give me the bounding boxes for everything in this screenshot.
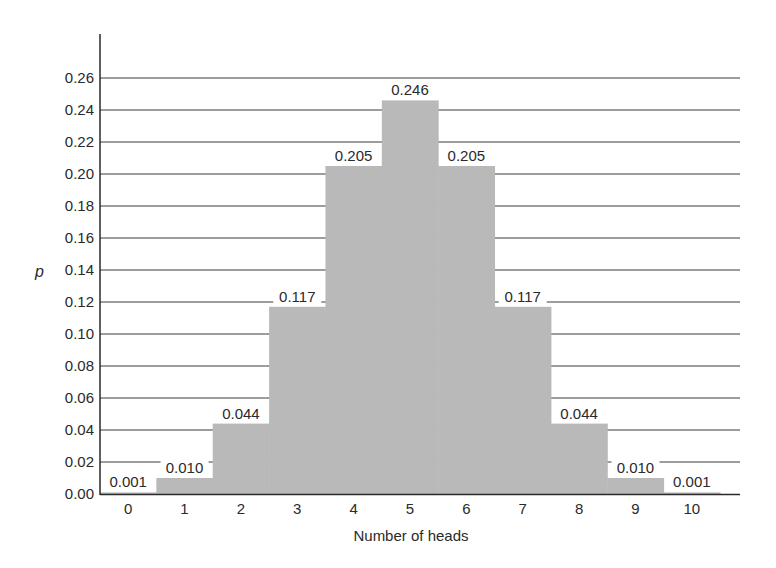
y-tick-label: 0.26 <box>65 69 94 86</box>
x-tick-label: 2 <box>237 500 245 517</box>
y-tick-label: 0.10 <box>65 325 94 342</box>
x-tick-label: 9 <box>631 500 639 517</box>
value-label: 0.117 <box>279 288 315 305</box>
value-label: 0.044 <box>560 405 598 422</box>
y-tick-label: 0.24 <box>65 101 94 118</box>
value-label: 0.044 <box>222 405 260 422</box>
y-tick-label: 0.20 <box>65 165 94 182</box>
bar-3 <box>269 307 326 494</box>
bar-7 <box>495 307 552 494</box>
y-tick-label: 0.22 <box>65 133 94 150</box>
y-tick-label: 0.06 <box>65 389 94 406</box>
value-label: 0.117 <box>505 288 541 305</box>
bar-4 <box>325 166 382 494</box>
y-tick-label: 0.14 <box>65 261 94 278</box>
x-tick-label: 5 <box>406 500 414 517</box>
bar-1 <box>156 478 213 494</box>
bars <box>100 100 721 494</box>
bar-2 <box>213 424 270 494</box>
bar-9 <box>607 478 664 494</box>
value-label: 0.010 <box>617 459 655 476</box>
y-tick-label: 0.08 <box>65 357 94 374</box>
x-tick-label: 7 <box>519 500 527 517</box>
x-tick-label: 10 <box>683 500 700 517</box>
x-tick-label: 8 <box>575 500 583 517</box>
x-tick-label: 4 <box>349 500 357 517</box>
value-label: 0.205 <box>335 147 373 164</box>
value-label: 0.246 <box>391 81 429 98</box>
bar-8 <box>551 424 608 494</box>
binomial-bar-chart: 0.0010.0100.0440.1170.2050.2460.2050.117… <box>0 0 776 568</box>
y-tick-label: 0.04 <box>65 421 94 438</box>
value-label: 0.205 <box>448 147 486 164</box>
y-tick-label: 0.16 <box>65 229 94 246</box>
y-tick-label: 0.18 <box>65 197 94 214</box>
x-tick-label: 1 <box>180 500 188 517</box>
y-axis-label: p <box>34 263 44 280</box>
x-tick-label: 0 <box>124 500 132 517</box>
x-tick-labels: 012345678910 <box>124 500 700 517</box>
value-label: 0.001 <box>109 473 147 490</box>
value-label: 0.010 <box>166 459 204 476</box>
y-tick-label: 0.02 <box>65 453 94 470</box>
y-tick-label: 0.00 <box>65 485 94 502</box>
bar-6 <box>438 166 495 494</box>
bar-5 <box>382 100 439 494</box>
x-tick-label: 3 <box>293 500 301 517</box>
y-tick-labels: 0.000.020.040.060.080.100.120.140.160.18… <box>65 69 94 502</box>
value-label: 0.001 <box>673 473 711 490</box>
y-tick-label: 0.12 <box>65 293 94 310</box>
x-tick-label: 6 <box>462 500 470 517</box>
x-axis-label: Number of heads <box>353 527 468 544</box>
